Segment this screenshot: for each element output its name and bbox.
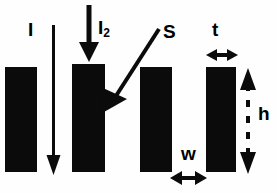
grating-bar-4: [206, 67, 236, 172]
height-dimension-arrow-h: [240, 68, 256, 174]
label-height: h: [258, 104, 270, 123]
label-incident-beam: I: [28, 20, 33, 39]
grating-bar-3: [140, 67, 172, 172]
label-second-beam-subscript: 2: [103, 26, 110, 40]
label-second-beam: I2: [98, 18, 110, 37]
grating-schematic-figure: I I2 S t w h: [0, 0, 277, 193]
label-scattered-beam: S: [163, 22, 176, 41]
thickness-dimension-arrow-t: [206, 49, 238, 61]
label-width: w: [181, 144, 196, 163]
schematic-drawing: [0, 0, 277, 193]
label-thickness: t: [212, 20, 218, 39]
incident-beam-arrow-I: [47, 25, 61, 175]
second-beam-arrow-I2: [79, 5, 99, 62]
grating-bar-2: [72, 64, 105, 172]
grating-bar-1: [5, 67, 37, 172]
width-dimension-arrow-w: [170, 171, 207, 185]
